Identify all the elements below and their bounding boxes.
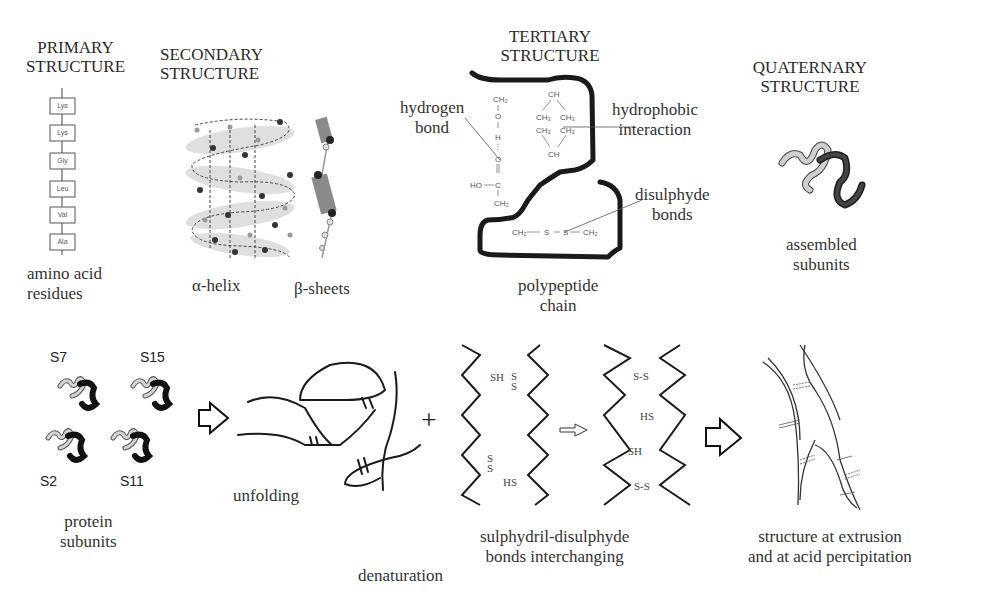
final-structure-caption: structure at extrusion and at acid perci…: [748, 527, 912, 567]
extrusion-structure-illustration: [0, 0, 983, 603]
